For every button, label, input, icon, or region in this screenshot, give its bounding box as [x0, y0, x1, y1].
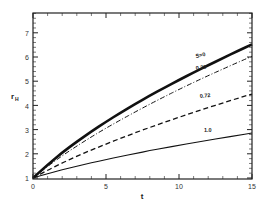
- series-line-0-29: [33, 56, 252, 178]
- series-line-0-72: [33, 94, 252, 178]
- line-chart: 0 5 10 15 1 2 3 4 5 6 7 t r H S=0 0.29 0…: [0, 0, 268, 203]
- x-axis-title: t: [141, 192, 144, 201]
- y-tick-label-2: 2: [25, 151, 29, 158]
- curve-label-0-29: 0.29: [195, 64, 206, 71]
- y-tick-label-6: 6: [25, 54, 29, 61]
- curve-label-0-72: 0.72: [199, 92, 210, 99]
- svg-text:H: H: [15, 96, 19, 102]
- x-tick-label-10: 10: [175, 183, 183, 190]
- plot-frame: [33, 13, 252, 179]
- y-tick-label-5: 5: [25, 78, 29, 85]
- y-tick-label-1: 1: [25, 175, 29, 182]
- y-axis-title: r H: [11, 92, 19, 102]
- x-tick-label-0: 0: [31, 183, 35, 190]
- y-tick-label-3: 3: [25, 127, 29, 134]
- x-tick-label-15: 15: [248, 183, 256, 190]
- y-tick-label-7: 7: [25, 30, 29, 37]
- x-tick-label-5: 5: [104, 183, 108, 190]
- x-axis-ticks: [33, 13, 252, 179]
- series-line-1-0: [33, 133, 252, 178]
- y-tick-label-4: 4: [25, 103, 29, 110]
- curve-label-s0: S=0: [195, 51, 206, 59]
- series-line-s-0: [33, 44, 252, 178]
- svg-text:r: r: [11, 92, 14, 101]
- curve-label-1-0: 1.0: [204, 127, 212, 133]
- curves-group: [33, 44, 252, 178]
